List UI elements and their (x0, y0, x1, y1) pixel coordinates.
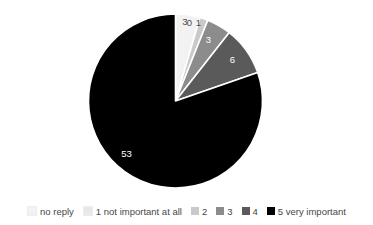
legend-item-label: 1 not important at all (96, 206, 182, 217)
legend-item-label: 2 (202, 206, 207, 217)
chart-plot-area: 3013653 (0, 0, 373, 196)
legend-item[interactable]: 5 very important (267, 206, 346, 217)
legend-swatch-icon (27, 206, 37, 216)
legend-item[interactable]: 4 (242, 206, 258, 217)
chart-legend: no reply1 not important at all2345 very … (0, 200, 373, 222)
legend-item-label: no reply (40, 206, 74, 217)
pie-slice-label: 53 (121, 148, 132, 159)
legend-item-label: 5 very important (278, 206, 346, 217)
legend-item[interactable]: 2 (191, 206, 207, 217)
legend-item[interactable]: 1 not important at all (83, 206, 182, 217)
pie-slice-label: 0 (187, 17, 192, 28)
legend-swatch-icon (83, 206, 93, 216)
pie-slice-label: 6 (230, 54, 235, 65)
legend-item-label: 4 (253, 206, 258, 217)
pie-slice-label: 3 (206, 34, 211, 45)
pie-slice-label: 1 (196, 17, 201, 28)
legend-swatch-icon (267, 207, 275, 215)
legend-item[interactable]: 3 (216, 206, 232, 217)
legend-item[interactable]: no reply (27, 206, 74, 217)
pie-slices-group (88, 14, 262, 188)
legend-item-label: 3 (227, 206, 232, 217)
legend-swatch-icon (191, 207, 199, 215)
pie-chart-svg: 3013653 (0, 0, 373, 196)
pie-chart-figure: 3013653 no reply1 not important at all23… (0, 0, 373, 225)
legend-swatch-icon (242, 207, 250, 215)
legend-swatch-icon (216, 207, 224, 215)
